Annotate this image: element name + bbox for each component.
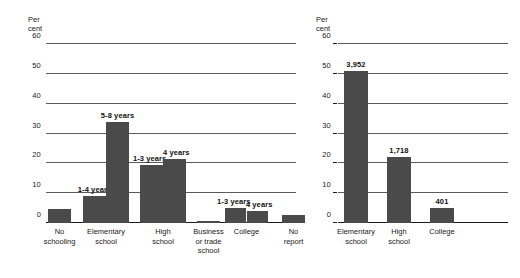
bar-value-high-school-right: 1,718	[389, 146, 408, 155]
ytick-label-30-left: 30	[32, 120, 41, 129]
chart-left: Per cent 0 10 20 30 40 50 60 No schoolin…	[0, 0, 300, 278]
ytick-dash-50-right	[333, 73, 337, 74]
category-label-elementary-school-right: Elementary school	[337, 227, 375, 246]
bar-value-college-4-years: 4 years	[246, 200, 273, 209]
bar-high-school-4-years: 4 years	[163, 159, 186, 223]
category-label-elementary-school: Elementary school	[87, 227, 125, 246]
ytick-label-40-right: 40	[322, 90, 331, 99]
category-label-business-or-trade-school: Business or trade school	[193, 227, 223, 256]
ytick-label-0-left: 0	[37, 210, 41, 219]
bar-value-high-school-1-3-years: 1-3 years	[133, 154, 166, 163]
ytick-label-10-left: 10	[32, 180, 41, 189]
ytick-label-60-right: 60	[322, 31, 331, 40]
ytick-dash-0-right	[333, 222, 337, 223]
plot-area-right: 0 10 20 30 40 50 60 3,952 Elementary sch…	[338, 44, 508, 223]
gridline-30-left	[46, 133, 296, 134]
bar-elementary-1-4-years: 1-4 years	[83, 196, 106, 223]
ytick-dash-60-right	[333, 43, 337, 44]
bar-elementary-5-8-years: 5-8 years	[106, 122, 129, 223]
bar-value-high-school-4-years: 4 years	[163, 148, 190, 157]
bar-no-schooling	[48, 209, 71, 223]
ytick-label-0-right: 0	[327, 210, 331, 219]
bar-college-4-years: 4 years	[247, 211, 268, 224]
bar-high-school-1-3-years: 1-3 years	[140, 165, 163, 223]
gridline-60-right	[338, 43, 508, 44]
bar-value-college-right: 401	[436, 197, 449, 206]
category-label-no-schooling: No schooling	[44, 227, 76, 246]
gridline-60-left	[46, 43, 296, 44]
ytick-dash-20-right	[333, 162, 337, 163]
category-label-high-school: High school	[152, 227, 174, 246]
ytick-label-30-right: 30	[322, 120, 331, 129]
chart-right: Per cent 0 10 20 30 40 50 60 3,952 Eleme…	[300, 0, 520, 278]
bar-value-elementary-5-8-years: 5-8 years	[101, 111, 134, 120]
ytick-label-20-right: 20	[322, 150, 331, 159]
ytick-label-10-right: 10	[322, 180, 331, 189]
ytick-label-50-left: 50	[32, 60, 41, 69]
ytick-label-40-left: 40	[32, 90, 41, 99]
ytick-dash-30-right	[333, 133, 337, 134]
ytick-dash-40-right	[333, 103, 337, 104]
ytick-label-50-right: 50	[322, 60, 331, 69]
category-label-college-right: College	[429, 227, 454, 237]
gridline-50-left	[46, 73, 296, 74]
bar-high-school-right: 1,718	[387, 157, 411, 224]
bar-college-right: 401	[430, 208, 454, 224]
bar-business-or-trade-school	[197, 221, 220, 223]
plot-area-left: 0 10 20 30 40 50 60 No schooling 1-4 yea…	[46, 44, 296, 223]
bar-value-elementary-school-right: 3,952	[346, 60, 365, 69]
bar-college-1-3-years: 1-3 years	[225, 208, 246, 224]
ytick-dash-10-right	[333, 192, 337, 193]
ytick-label-60-left: 60	[32, 31, 41, 40]
gridline-40-left	[46, 103, 296, 104]
ytick-label-20-left: 20	[32, 150, 41, 159]
bar-elementary-school-right: 3,952	[344, 71, 368, 223]
category-label-high-school-right: High school	[388, 227, 410, 246]
category-label-college: College	[234, 227, 259, 237]
